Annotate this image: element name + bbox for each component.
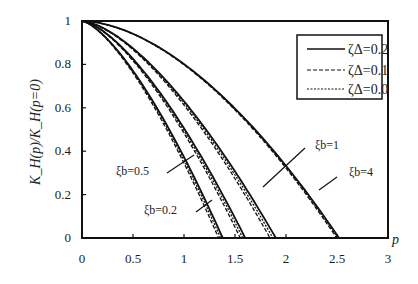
y-tick-label: 1 [65,13,72,28]
curve-ξb=1 [82,21,276,238]
x-tick-label: 2.5 [329,251,345,266]
y-tick-label: 0.6 [55,100,72,115]
label-xi-1: ξb=1 [315,138,339,152]
x-tick-label: 2 [283,251,290,266]
x-tick-label: 1.5 [227,251,243,266]
x-axis-label: p [391,232,399,247]
y-axis-label: K_H(p)/K_H(p=0) [28,79,44,186]
y-tick-label: 0.4 [55,143,72,158]
label-xi-0.2: ξb=0.2 [144,203,177,217]
legend-label-2: ζΔ=0.0 [348,82,388,97]
y-tick-label: 0 [65,230,72,245]
label-xi-0.5: ξb=0.5 [116,164,149,178]
curve-ξb=1 [82,21,273,238]
curve-annotations: ξb=0.5 ξb=0.2 ξb=1 ξb=4 [116,138,373,217]
x-tick-label: 0.5 [125,251,141,266]
x-tick-label: 3 [385,251,392,266]
chart: 00.511.522.5300.20.40.60.81 ζΔ=0.2 ζΔ=0.… [0,0,418,284]
legend-label-1: ζΔ=0.1 [348,63,388,78]
legend-label-0: ζΔ=0.2 [348,42,388,57]
legend: ζΔ=0.2 ζΔ=0.1 ζΔ=0.0 [297,35,388,99]
x-tick-label: 1 [181,251,188,266]
x-tick-label: 0 [79,251,86,266]
y-tick-label: 0.8 [55,56,71,71]
label-xi-4: ξb=4 [349,165,373,179]
y-tick-label: 0.2 [55,187,71,202]
